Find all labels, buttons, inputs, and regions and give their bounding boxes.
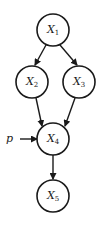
edge-x3-x4: [65, 98, 75, 126]
node-x5: X5: [37, 180, 69, 212]
node-x3: X3: [63, 66, 95, 98]
node-x2: X2: [16, 66, 48, 98]
edge-x1-x2: [35, 45, 46, 65]
dag-diagram: p X1 X2 X3 X4 X5: [0, 0, 103, 226]
edge-x1-x3: [60, 45, 77, 65]
node-x1: X1: [37, 14, 69, 46]
edge-x2-x4: [36, 98, 42, 126]
node-x4: X4: [37, 123, 69, 155]
input-label-p: p: [6, 132, 13, 145]
